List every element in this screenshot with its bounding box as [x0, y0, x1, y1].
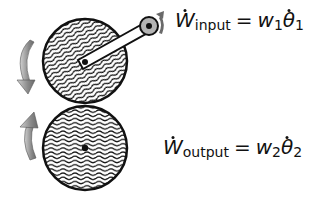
top-gear-rotation-arrow-icon	[17, 40, 35, 94]
input-weight-symbol: w	[258, 8, 274, 32]
input-power-equation: Winput=w1θ1	[175, 8, 304, 33]
input-power-symbol: W	[175, 8, 195, 32]
input-angular-velocity-symbol: θ	[283, 8, 295, 32]
output-power-symbol: W	[163, 135, 183, 159]
equals-sign: =	[234, 135, 251, 159]
bottom-gear	[43, 106, 127, 190]
output-angular-velocity-subscript: 2	[293, 144, 302, 160]
top-gear-axle	[82, 59, 88, 65]
output-power-equation: Woutput=w2θ2	[163, 135, 302, 160]
input-weight-subscript: 1	[274, 17, 283, 33]
output-weight-symbol: w	[256, 135, 272, 159]
bottom-gear-rotation-arrow-icon	[20, 112, 38, 160]
input-angular-velocity-subscript: 1	[295, 17, 304, 33]
bottom-gear-axle	[82, 145, 88, 151]
output-power-subscript: output	[183, 144, 229, 160]
equals-sign: =	[236, 8, 253, 32]
output-weight-subscript: 2	[272, 144, 281, 160]
input-power-subscript: input	[195, 17, 231, 33]
output-angular-velocity-symbol: θ	[281, 135, 293, 159]
